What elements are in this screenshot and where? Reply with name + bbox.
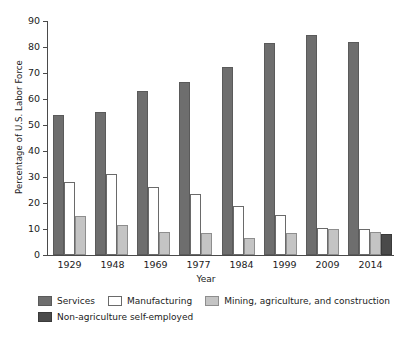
bar-1 <box>53 115 64 255</box>
x-axis-tick-label: 1969 <box>134 259 177 270</box>
legend-swatch-icon <box>108 296 122 306</box>
bar-1 <box>264 43 275 255</box>
x-axis-tick-label: 2014 <box>349 259 392 270</box>
bar-3 <box>201 233 212 255</box>
legend-item-label: Mining, agriculture, and construction <box>224 296 390 306</box>
bar-3 <box>159 232 170 255</box>
legend-swatch-icon <box>38 296 52 306</box>
y-axis-tick-label: 0 <box>14 250 40 260</box>
bar-group <box>132 18 174 255</box>
bar-2 <box>106 174 117 255</box>
y-axis-tick-label: 30 <box>14 172 40 182</box>
legend-item[interactable]: Mining, agriculture, and construction <box>205 296 390 306</box>
legend-item-label: Non-agriculture self-employed <box>57 312 193 322</box>
bar-2 <box>64 182 75 255</box>
legend-item-label: Services <box>57 296 95 306</box>
bar-1 <box>137 91 148 255</box>
y-axis-tick <box>43 255 48 256</box>
bar-chart: Percentage of U.S. Labor Force 908070605… <box>0 0 412 345</box>
bar-group <box>259 18 301 255</box>
bar-groups <box>48 18 392 255</box>
x-axis-tick-label: 1999 <box>263 259 306 270</box>
legend-row-secondary: Non-agriculture self-employed <box>38 312 404 322</box>
bar-group <box>90 18 132 255</box>
bar-1 <box>306 35 317 255</box>
y-axis-tick-label: 90 <box>14 16 40 26</box>
legend-row-primary: ServicesManufacturingMining, agriculture… <box>38 296 404 306</box>
legend-swatch-icon <box>205 296 219 306</box>
bar-2 <box>359 229 370 255</box>
legend-swatch-icon <box>38 312 52 322</box>
bar-group <box>48 18 90 255</box>
bar-2 <box>233 206 244 255</box>
bar-3 <box>244 238 255 255</box>
bar-2 <box>148 187 159 255</box>
bar-group <box>217 18 259 255</box>
bar-group <box>343 18 392 255</box>
bar-group <box>301 18 343 255</box>
x-axis-tick-label: 1948 <box>91 259 134 270</box>
bar-2 <box>190 194 201 255</box>
bar-4 <box>381 234 392 255</box>
x-axis-tick-labels: 19291948196919771984199920092014 <box>48 259 392 270</box>
bar-3 <box>117 225 128 255</box>
y-axis-tick-label: 60 <box>14 94 40 104</box>
bar-3 <box>286 233 297 255</box>
bar-group <box>174 18 216 255</box>
x-axis-line <box>47 255 394 256</box>
x-axis-tick-label: 1977 <box>177 259 220 270</box>
bar-3 <box>370 232 381 255</box>
y-axis-tick-label: 80 <box>14 42 40 52</box>
y-axis-tick-label: 40 <box>14 146 40 156</box>
x-axis-tick-label: 2009 <box>306 259 349 270</box>
legend-item[interactable]: Services <box>38 296 95 306</box>
bar-1 <box>179 82 190 255</box>
bar-1 <box>95 112 106 255</box>
chart-legend: ServicesManufacturingMining, agriculture… <box>38 296 404 328</box>
y-axis-tick-label: 70 <box>14 68 40 78</box>
bar-1 <box>222 67 233 256</box>
x-axis-title: Year <box>0 274 412 284</box>
y-axis-tick-label: 20 <box>14 198 40 208</box>
bar-2 <box>275 215 286 255</box>
plot-area: 9080706050403020100 <box>47 18 392 256</box>
x-axis-tick-label: 1984 <box>220 259 263 270</box>
y-axis-tick-label: 50 <box>14 120 40 130</box>
bar-3 <box>328 229 339 255</box>
bar-1 <box>348 42 359 255</box>
x-axis-tick-label: 1929 <box>48 259 91 270</box>
legend-item[interactable]: Non-agriculture self-employed <box>38 312 193 322</box>
bar-3 <box>75 216 86 255</box>
legend-item-label: Manufacturing <box>127 296 192 306</box>
y-axis-tick-label: 10 <box>14 224 40 234</box>
legend-item[interactable]: Manufacturing <box>108 296 192 306</box>
bar-2 <box>317 228 328 255</box>
